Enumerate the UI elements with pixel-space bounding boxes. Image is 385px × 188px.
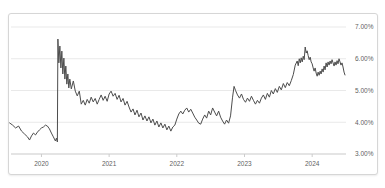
y-axis-label: 3.00% (355, 150, 374, 157)
x-axis-label: 2023 (237, 160, 252, 167)
chart-card: 7.00%6.00%5.00%4.00%3.00%202020212022202… (8, 13, 378, 175)
y-axis-label: 4.00% (355, 119, 374, 126)
y-axis-label: 5.00% (355, 87, 374, 94)
y-axis-label: 6.00% (355, 55, 374, 62)
x-axis-label: 2024 (305, 160, 320, 167)
screenshot-background: 7.00%6.00%5.00%4.00%3.00%202020212022202… (0, 0, 385, 188)
x-axis-label: 2021 (102, 160, 117, 167)
x-axis-label: 2022 (170, 160, 185, 167)
x-axis-label: 2020 (34, 160, 49, 167)
chart-svg: 7.00%6.00%5.00%4.00%3.00%202020212022202… (9, 14, 377, 174)
y-axis-label: 7.00% (355, 23, 374, 30)
